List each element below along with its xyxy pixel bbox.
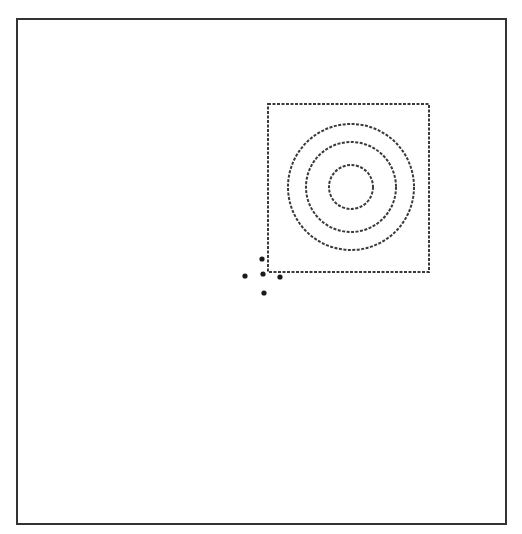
point-1: [259, 256, 264, 261]
point-2: [242, 273, 247, 278]
concentric-circles: [288, 124, 414, 250]
outer-frame: [17, 19, 506, 524]
circle-ring-2: [306, 142, 396, 232]
circle-ring-1: [329, 165, 373, 209]
scatter-points: [242, 256, 282, 295]
diagram-canvas: [0, 0, 522, 534]
dotted-square: [268, 104, 429, 272]
point-4: [277, 274, 282, 279]
point-3: [260, 271, 265, 276]
point-5: [261, 290, 266, 295]
